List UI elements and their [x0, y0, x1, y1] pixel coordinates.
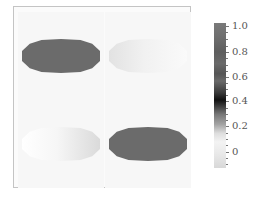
panel-top-right	[105, 12, 191, 100]
colorbar-label: 0.4	[232, 96, 248, 106]
panel-bottom-left	[18, 100, 104, 188]
panel-bottom-right	[105, 100, 191, 188]
ellipse-gradient	[22, 127, 100, 161]
panel-top-left	[18, 12, 104, 100]
ellipse-uniform	[22, 39, 100, 73]
colorbar	[214, 23, 226, 168]
colorbar-label: 0.8	[232, 47, 248, 57]
ellipse-uniform	[109, 127, 187, 161]
colorbar-ticks	[226, 23, 230, 168]
plot-frame	[13, 6, 191, 188]
colorbar-label: 0.6	[232, 72, 248, 82]
colorbar-label: 0.2	[232, 121, 248, 131]
colorbar-label: 0	[232, 147, 238, 157]
ellipse-gradient	[109, 39, 187, 73]
colorbar-label: 1.0	[232, 21, 248, 31]
